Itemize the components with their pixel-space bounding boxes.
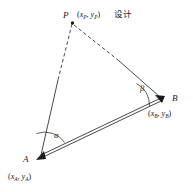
edge-P-A-dashed [58,24,72,80]
edge-P-B-dashed [74,25,118,60]
point-label-A: A [23,155,29,164]
coord-x-sub: B [154,113,157,119]
angle-arc-alpha [37,132,65,142]
angle-label-alpha: α [54,131,58,140]
geometry-diagram: P (xP, yP) 设计 B (xB, yB) A (xA, yA) α β [0,0,193,192]
edge-P-B [74,25,160,97]
baseline-lower-rail [41,101,161,158]
baseline-upper-rail [41,98,161,155]
edge-P-B-solid [118,60,160,97]
angle-label-beta: β [140,84,144,93]
coord-x-sub: P [83,14,86,20]
coord-y-sub: P [94,14,97,20]
point-label-B: B [172,94,178,103]
point-coordinate-label-P: (xP, yP) [77,11,100,19]
point-note-label-P: 设计 [114,10,132,19]
vertex-marker-A [36,151,46,160]
coord-y-sub: A [25,176,28,182]
edge-P-A-solid [41,80,58,155]
point-coordinate-label-B: (xB, yB) [148,110,171,118]
point-label-P: P [63,11,69,20]
point-coordinate-label-A: (xA, yA) [8,173,31,181]
coord-x-sub: A [14,176,17,182]
edge-A-B-baseline [41,98,161,158]
vertex-marker-P [71,21,74,24]
coord-y-sub: B [165,113,168,119]
